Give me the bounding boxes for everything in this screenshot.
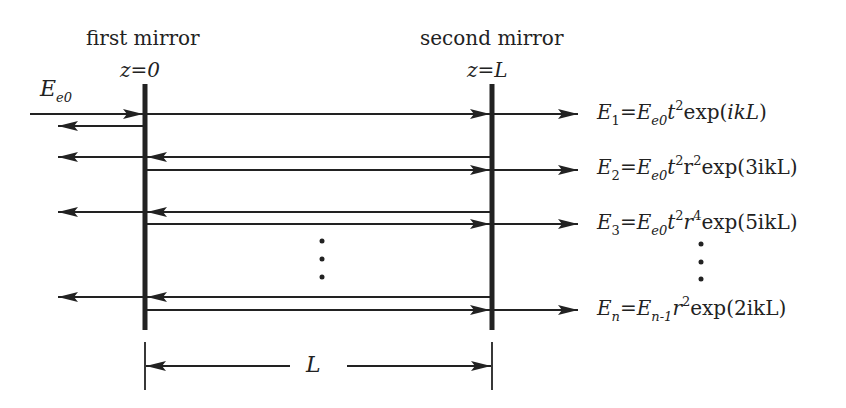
zL-label: z=L: [467, 60, 508, 80]
equation-en: En=En-1r2exp(2ikL): [597, 298, 786, 318]
second-mirror-label: second mirror: [420, 28, 563, 48]
first-mirror-label: first mirror: [86, 28, 200, 48]
equation-e1: E1=Ee0t2exp(ikL): [597, 102, 767, 122]
input-field-label: Ee0: [40, 78, 72, 100]
vertical-ellipsis-right: [699, 242, 704, 282]
vertical-ellipsis-center: [320, 239, 325, 280]
z0-label: z=0: [120, 60, 160, 80]
cavity-length-label: L: [306, 354, 321, 376]
equation-e2: E2=Ee0t2r2exp(3ikL): [597, 157, 797, 177]
equation-e3: E3=Ee0t2r4exp(5ikL): [597, 212, 797, 232]
